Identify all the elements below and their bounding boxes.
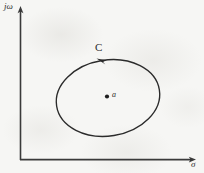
horizontal-axis (20, 157, 196, 163)
vertical-axis (18, 6, 24, 160)
plot-svg (0, 0, 204, 173)
filled-dot-icon (105, 94, 109, 98)
point-label: a (112, 91, 116, 99)
vertical-axis-label: jω (4, 2, 13, 11)
contour-label: C (95, 42, 102, 53)
horizontal-axis-label: σ (191, 160, 195, 169)
figure-canvas: jω σ C a (0, 0, 204, 173)
